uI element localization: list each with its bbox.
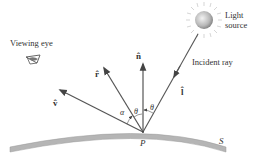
angle-alpha-arc — [127, 116, 132, 124]
surface-s — [10, 134, 226, 153]
surface-s-label: S — [219, 137, 224, 146]
angle-theta-left-label: θ — [134, 107, 138, 116]
incident-ray-arrow-icon — [174, 66, 180, 77]
view-vector-label: v̂ — [53, 99, 58, 108]
light-vector-label: l̂ — [181, 88, 184, 97]
light-source-icon — [186, 2, 222, 38]
eye-icon — [26, 55, 40, 64]
incident-ray-line — [143, 34, 198, 132]
reflection-vector-label: r̂ — [95, 70, 99, 79]
angle-theta-right-label: θ — [150, 103, 154, 112]
point-p-label: P — [140, 139, 146, 148]
point-p-dot — [142, 131, 144, 133]
light-source-label-line2: source — [225, 21, 247, 30]
angle-alpha-label: α — [120, 108, 124, 117]
normal-vector-label: n̂ — [136, 52, 141, 61]
viewing-eye-label: Viewing eye — [10, 39, 53, 48]
light-source-label-line1: Light — [225, 11, 243, 20]
incident-ray-label: Incident ray — [192, 58, 233, 67]
